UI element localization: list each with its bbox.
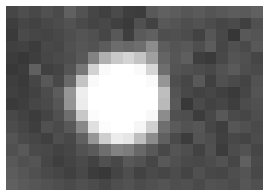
image-pixel [181,121,193,133]
image-pixel [99,52,111,64]
image-pixel [76,133,88,145]
image-pixel [6,52,18,64]
image-pixel [99,179,111,191]
image-pixel [41,156,53,168]
image-pixel [158,179,170,191]
image-pixel [158,52,170,64]
image-pixel [41,121,53,133]
image-pixel [228,75,240,87]
image-pixel [6,75,18,87]
image-pixel [146,18,158,30]
image-pixel [53,133,65,145]
image-pixel [240,75,252,87]
image-pixel [158,167,170,179]
image-pixel [228,87,240,99]
image-pixel [240,41,252,53]
image-pixel [111,52,123,64]
image-pixel [123,6,135,18]
image-pixel [193,75,205,87]
image-pixel [53,179,65,191]
image-pixel [123,121,135,133]
image-pixel [6,133,18,145]
image-pixel [146,52,158,64]
image-pixel [41,75,53,87]
image-pixel [99,144,111,156]
image-pixel [64,87,76,99]
image-pixel [64,75,76,87]
image-pixel [251,110,263,122]
image-pixel [29,87,41,99]
image-pixel [18,179,30,191]
image-pixel [170,52,182,64]
image-pixel [181,110,193,122]
image-pixel [181,98,193,110]
image-pixel [76,18,88,30]
image-pixel [251,6,263,18]
image-pixel [228,133,240,145]
image-pixel [193,87,205,99]
image-pixel [228,121,240,133]
image-pixel [53,98,65,110]
image-pixel [251,121,263,133]
image-pixel [170,75,182,87]
image-pixel [99,121,111,133]
image-pixel [228,52,240,64]
image-pixel [29,167,41,179]
image-pixel [216,18,228,30]
image-pixel [158,75,170,87]
image-pixel [29,41,41,53]
image-pixel [181,6,193,18]
image-pixel [146,87,158,99]
image-pixel [88,98,100,110]
image-pixel [251,156,263,168]
image-pixel [123,29,135,41]
image-pixel [99,41,111,53]
image-pixel [76,167,88,179]
image-pixel [41,52,53,64]
image-pixel [29,52,41,64]
image-pixel [111,41,123,53]
image-pixel [76,64,88,76]
image-pixel [170,41,182,53]
image-pixel [228,144,240,156]
image-pixel [88,87,100,99]
image-pixel [158,6,170,18]
image-pixel [158,110,170,122]
image-pixel [76,6,88,18]
image-pixel [146,133,158,145]
image-pixel [251,87,263,99]
image-pixel [240,18,252,30]
image-pixel [76,41,88,53]
image-pixel [99,167,111,179]
image-pixel [76,156,88,168]
image-pixel [170,156,182,168]
image-pixel [170,98,182,110]
image-pixel [53,87,65,99]
image-pixel [64,156,76,168]
image-pixel [216,133,228,145]
image-pixel [193,98,205,110]
image-pixel [216,6,228,18]
image-pixel [111,167,123,179]
image-pixel [170,179,182,191]
image-pixel [240,52,252,64]
image-pixel [146,110,158,122]
image-pixel [205,41,217,53]
image-pixel [53,41,65,53]
image-pixel [41,110,53,122]
image-pixel [88,52,100,64]
image-pixel [88,41,100,53]
image-pixel [170,64,182,76]
image-pixel [53,52,65,64]
image-pixel [240,144,252,156]
image-pixel [205,133,217,145]
image-pixel [181,133,193,145]
image-pixel [146,144,158,156]
image-pixel [193,6,205,18]
image-pixel [6,64,18,76]
image-pixel [134,144,146,156]
image-pixel [29,156,41,168]
image-pixel [18,156,30,168]
image-pixel [146,98,158,110]
image-pixel [134,52,146,64]
